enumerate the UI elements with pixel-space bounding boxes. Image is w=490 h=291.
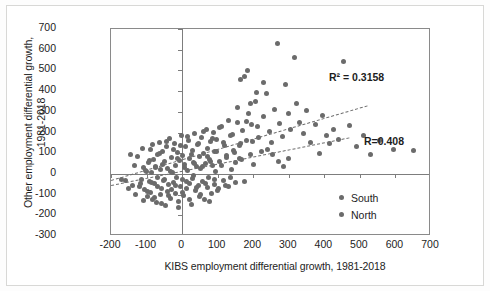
scatter-point	[158, 167, 163, 172]
y-tick-label: 200	[16, 125, 56, 137]
scatter-point	[244, 119, 249, 124]
scatter-point	[128, 152, 133, 157]
scatter-point	[217, 125, 222, 130]
scatter-point	[206, 175, 211, 180]
scatter-point	[238, 77, 243, 82]
y-tick	[178, 50, 182, 51]
y-tick-label: 600	[16, 42, 56, 54]
y-tick	[178, 91, 182, 92]
y-tick	[178, 112, 182, 113]
scatter-point	[223, 183, 228, 188]
scatter-point	[216, 186, 221, 191]
scatter-point	[164, 139, 169, 144]
scatter-point	[157, 151, 162, 156]
scatter-point	[249, 122, 254, 127]
scatter-point	[192, 131, 197, 136]
scatter-point	[261, 114, 266, 119]
y-tick-label: 500	[16, 62, 56, 74]
scatter-point	[126, 186, 131, 191]
x-tick	[395, 174, 396, 178]
x-tick	[289, 174, 290, 178]
x-tick	[111, 174, 112, 178]
scatter-point	[164, 144, 169, 149]
scatter-point	[171, 147, 176, 152]
scatter-point	[179, 133, 184, 138]
scatter-point	[214, 137, 219, 142]
scatter-point	[255, 124, 260, 129]
scatter-point	[253, 99, 258, 104]
scatter-point	[368, 152, 373, 157]
scatter-point	[202, 197, 207, 202]
scatter-point	[226, 118, 231, 123]
scatter-point	[173, 191, 178, 196]
scatter-point	[178, 184, 183, 189]
y-tick-label: -200	[16, 207, 56, 219]
scatter-point	[324, 133, 329, 138]
scatter-point	[148, 147, 153, 152]
scatter-point	[198, 192, 203, 197]
scatter-point	[317, 151, 322, 156]
scatter-point	[230, 132, 235, 137]
scatter-point	[235, 105, 240, 110]
r-squared-annotation: R² = 0.3158	[329, 71, 384, 83]
scatter-point	[152, 195, 157, 200]
scatter-point	[135, 154, 140, 159]
scatter-point	[141, 198, 146, 203]
scatter-point	[391, 147, 396, 152]
scatter-point	[176, 199, 181, 204]
legend: SouthNorth	[339, 189, 378, 223]
legend-item-north[interactable]: North	[339, 206, 378, 223]
legend-item-south[interactable]: South	[339, 189, 378, 206]
scatter-point	[277, 121, 282, 126]
scatter-point	[240, 128, 245, 133]
y-tick	[178, 215, 182, 216]
scatter-point	[166, 193, 171, 198]
y-tick-label: 0	[16, 166, 56, 178]
scatter-point	[180, 190, 185, 195]
plot-area: R² = 0.3158 R=0.408 SouthNorth	[110, 28, 430, 235]
scatter-point	[151, 157, 156, 162]
scatter-point	[269, 140, 274, 145]
scatter-point	[286, 111, 291, 116]
y-tick-label: -300	[16, 228, 56, 240]
legend-label: North	[351, 209, 377, 221]
scatter-point	[286, 156, 291, 161]
y-tick-label: 400	[16, 83, 56, 95]
scatter-point	[221, 178, 226, 183]
scatter-point	[254, 90, 259, 95]
x-tick	[324, 174, 325, 178]
x-tick	[218, 174, 219, 178]
y-tick-label: 300	[16, 104, 56, 116]
scatter-point	[261, 80, 266, 85]
y-tick-label: -100	[16, 187, 56, 199]
scatter-point	[264, 91, 269, 96]
scatter-point	[173, 183, 178, 188]
correlation-annotation: R=0.408	[364, 135, 404, 147]
scatter-point	[207, 199, 212, 204]
scatter-point	[281, 164, 286, 169]
scatter-point	[228, 175, 233, 180]
scatter-point	[232, 150, 237, 155]
x-tick-label: 700	[408, 238, 452, 250]
scatter-point	[150, 142, 155, 147]
scatter-point	[184, 186, 189, 191]
y-tick-label: 700	[16, 21, 56, 33]
scatter-point	[280, 134, 285, 139]
scatter-point	[184, 179, 189, 184]
scatter-point	[248, 101, 253, 106]
scatter-point	[292, 55, 297, 60]
scatter-point	[138, 181, 143, 186]
scatter-point	[189, 202, 194, 207]
scatter-point	[242, 179, 247, 184]
x-tick	[360, 174, 361, 178]
scatter-point	[237, 143, 242, 148]
scatter-point	[283, 82, 288, 87]
legend-marker-icon	[339, 195, 344, 200]
scatter-point	[174, 175, 179, 180]
scatter-point	[173, 163, 178, 168]
scatter-point	[245, 68, 250, 73]
scatter-point	[201, 129, 206, 134]
scatter-point	[157, 140, 162, 145]
legend-marker-icon	[339, 212, 344, 217]
scatter-point	[235, 120, 240, 125]
